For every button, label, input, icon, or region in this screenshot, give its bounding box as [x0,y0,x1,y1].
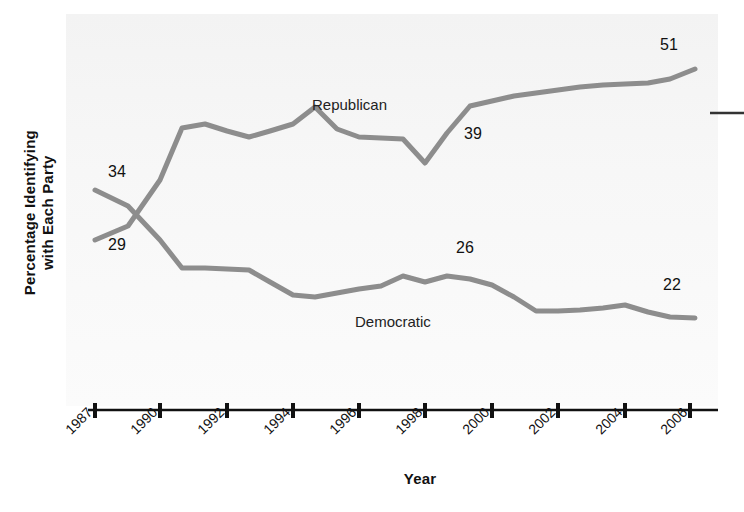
chart-figure: Percentage Identifying with Each Party Y… [0,0,744,512]
value-label-republican-2001: 39 [464,125,482,143]
value-label-republican-2006: 51 [660,36,678,54]
y-axis-title: Percentage Identifying with Each Party [21,88,56,338]
democratic-series-label: Democratic [355,313,431,330]
republican-line [95,69,695,240]
value-label-democratic-1987: 34 [108,163,126,181]
y-axis-title-line2: with Each Party [39,88,57,338]
value-label-democratic-2006: 22 [663,276,681,294]
republican-series-label: Republican [312,96,387,113]
y-axis-title-line1: Percentage Identifying [21,88,39,338]
chart-canvas [0,0,744,512]
x-axis-title: Year [360,470,480,487]
value-label-democratic-1999: 26 [456,239,474,257]
democratic-line [95,190,695,318]
value-label-republican-1987: 29 [108,236,126,254]
